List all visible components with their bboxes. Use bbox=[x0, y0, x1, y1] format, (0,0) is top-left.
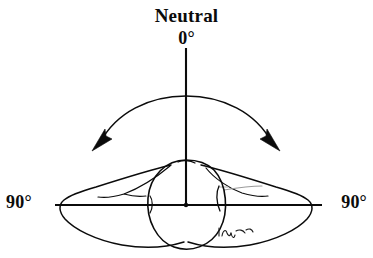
neutral-angle-label: 0° bbox=[0, 29, 373, 47]
page-title: Neutral bbox=[0, 6, 373, 25]
axis-origin-marker bbox=[184, 203, 188, 207]
left-angle-label: 90° bbox=[6, 193, 32, 211]
range-of-motion-figure: Neutral 0° 90° 90° bbox=[0, 0, 373, 258]
right-angle-label: 90° bbox=[341, 193, 367, 211]
